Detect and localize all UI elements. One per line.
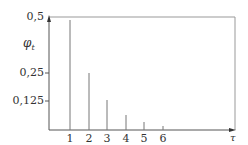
x-tick-label-1: 1 xyxy=(64,133,76,144)
y-axis-arrow-icon xyxy=(47,15,51,22)
x-tick-label-5: 5 xyxy=(138,133,150,144)
y-tick-label-0.125: 0,125 xyxy=(0,95,44,106)
x-tick-label-4: 4 xyxy=(120,133,132,144)
y-tick-label-0.25: 0,25 xyxy=(0,67,44,78)
x-tick-label-6: 6 xyxy=(157,133,169,144)
x-tick-label-2: 2 xyxy=(83,133,95,144)
x-tick-label-3: 3 xyxy=(101,133,113,144)
y-tick-label-0.5: 0,5 xyxy=(0,11,44,22)
y-axis-label-subscript: t xyxy=(31,43,34,52)
x-axis-label: τ xyxy=(230,133,236,143)
y-axis-label: φt xyxy=(23,37,35,52)
stem-chart: 0,5 0,25 0,125 φt 1 2 3 4 5 6 τ xyxy=(0,0,248,145)
